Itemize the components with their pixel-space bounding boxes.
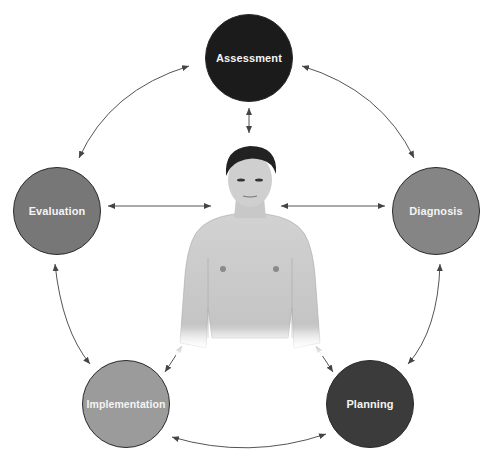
node-label-implementation: Implementation xyxy=(87,398,166,410)
arrow-evaluation-implementation xyxy=(55,264,90,364)
patient-photo xyxy=(176,138,324,356)
node-label-assessment: Assessment xyxy=(216,52,282,64)
node-planning: Planning xyxy=(326,360,414,448)
node-label-planning: Planning xyxy=(346,398,393,410)
nursing-process-diagram: Assessment Diagnosis Planning Implementa… xyxy=(0,0,492,462)
node-label-diagnosis: Diagnosis xyxy=(409,205,462,217)
arrow-implementation-planning xyxy=(172,434,326,448)
arrow-diagnosis-planning xyxy=(408,264,440,364)
node-diagnosis: Diagnosis xyxy=(392,167,480,255)
node-assessment: Assessment xyxy=(205,14,293,102)
node-implementation: Implementation xyxy=(82,360,170,448)
arrow-evaluation-assessment xyxy=(79,66,189,158)
node-label-evaluation: Evaluation xyxy=(29,205,86,217)
node-evaluation: Evaluation xyxy=(13,167,101,255)
